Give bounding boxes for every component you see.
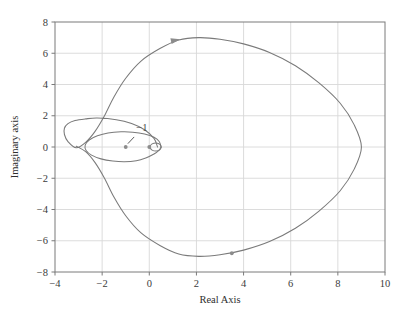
- x-tick-label: −4: [49, 278, 61, 289]
- y-tick-label: 2: [43, 110, 48, 121]
- x-tick-label: 0: [147, 278, 152, 289]
- y-tick-label: −4: [37, 204, 49, 215]
- x-tick-label: 10: [380, 278, 391, 289]
- x-axis-title: Real Axis: [199, 294, 240, 305]
- y-axis-title: Imaginary axis: [9, 116, 20, 179]
- origin-marker: [147, 145, 151, 149]
- x-tick-label: 2: [194, 278, 199, 289]
- x-tick-label: 4: [241, 278, 247, 289]
- y-tick-label: −2: [37, 173, 48, 184]
- nyquist-plot-page: −1 −4−20246810 −8−6−4−202468 Real Axis I…: [0, 0, 411, 320]
- y-tick-label: −8: [37, 267, 48, 278]
- critical-point-label: −1: [136, 122, 147, 133]
- critical-point-marker: [124, 145, 128, 149]
- y-tick-label: 0: [43, 142, 48, 153]
- x-tick-label: 8: [335, 278, 340, 289]
- direction-marker-lower: [230, 251, 234, 255]
- y-tick-label: 6: [43, 48, 48, 59]
- x-tick-label: −2: [97, 278, 108, 289]
- nyquist-chart: −1 −4−20246810 −8−6−4−202468 Real Axis I…: [0, 0, 411, 320]
- y-tick-label: 8: [43, 17, 48, 28]
- y-tick-label: −6: [37, 235, 48, 246]
- y-tick-label: 4: [43, 79, 49, 90]
- x-tick-label: 6: [288, 278, 293, 289]
